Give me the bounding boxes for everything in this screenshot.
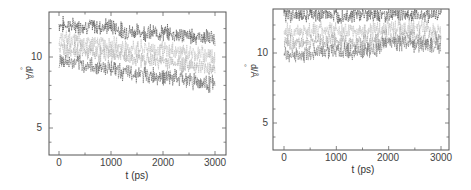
- right-ytick-5: 5: [248, 118, 268, 128]
- left-ytick-5: 5: [22, 123, 42, 133]
- left-xaxis-label: t (ps): [107, 170, 167, 181]
- left-chart-panel: 10 5 0 1000 2000 3000 t (ps) ° d/Å: [0, 0, 235, 190]
- right-yaxis-degree-mark: °: [244, 64, 247, 71]
- right-ytick-10: 10: [248, 48, 268, 58]
- right-xaxis-label: t (ps): [333, 164, 393, 175]
- left-xtick-2000: 2000: [143, 158, 183, 168]
- left-yaxis-degree-mark: °: [20, 67, 23, 74]
- right-xtick-3000: 3000: [421, 153, 461, 163]
- right-xtick-0: 0: [264, 153, 304, 163]
- series-line-1: [284, 10, 441, 24]
- left-xtick-0: 0: [39, 158, 79, 168]
- left-xtick-3000: 3000: [195, 158, 235, 168]
- left-yaxis-label: d/Å: [24, 66, 34, 80]
- right-xtick-1000: 1000: [316, 153, 356, 163]
- right-chart-panel: 10 5 0 1000 2000 3000 t (ps) ° d/Å: [235, 0, 471, 190]
- right-xtick-2000: 2000: [368, 153, 408, 163]
- left-ytick-10: 10: [22, 52, 42, 62]
- left-xtick-1000: 1000: [91, 158, 131, 168]
- right-yaxis-label: d/Å: [249, 64, 259, 78]
